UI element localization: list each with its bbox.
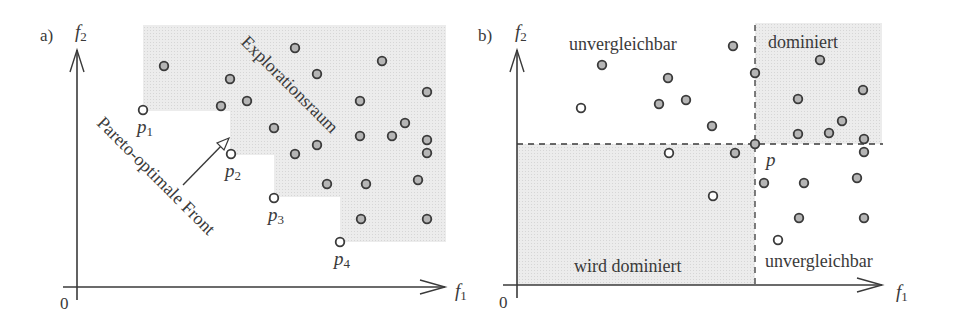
filled-point xyxy=(731,149,740,158)
filled-point xyxy=(800,179,809,188)
filled-point xyxy=(860,148,869,157)
panel-a: a) f2 f1 0 Explorationsraum Pareto-optim… xyxy=(40,21,467,313)
explored-point xyxy=(313,141,322,150)
reference-point-label: p xyxy=(764,149,776,170)
pareto-front-label: Pareto-optimale Front xyxy=(93,113,219,239)
filled-point xyxy=(853,174,862,183)
filled-point xyxy=(795,214,804,223)
y-axis-label: f2 xyxy=(515,21,527,44)
open-point xyxy=(665,149,674,158)
explored-point xyxy=(401,119,410,128)
explored-point xyxy=(226,75,235,84)
filled-point xyxy=(859,86,868,95)
point-label: p4 xyxy=(332,248,351,271)
explored-point xyxy=(323,180,332,189)
pareto-figure: a) f2 f1 0 Explorationsraum Pareto-optim… xyxy=(0,0,958,328)
explored-point xyxy=(291,150,300,159)
explored-point xyxy=(423,215,432,224)
explored-point xyxy=(160,62,169,71)
open-point xyxy=(577,104,586,113)
explored-point xyxy=(270,124,279,133)
pareto-point xyxy=(270,194,279,203)
explored-point xyxy=(388,132,397,141)
explored-point xyxy=(378,57,387,66)
filled-point xyxy=(598,61,607,70)
x-axis-label: f1 xyxy=(455,280,467,303)
filled-point xyxy=(664,74,673,83)
filled-point xyxy=(794,130,803,139)
filled-point xyxy=(825,129,834,138)
explored-point xyxy=(362,180,371,189)
region-label-top-left: unvergleichbar xyxy=(569,34,677,54)
filled-point xyxy=(682,96,691,105)
filled-point xyxy=(816,56,825,65)
filled-point xyxy=(708,122,717,131)
explored-point xyxy=(414,176,423,185)
origin-label: 0 xyxy=(60,294,69,313)
panel-b-label: b) xyxy=(478,26,492,45)
region-label-bottom-left: wird dominiert xyxy=(574,256,681,276)
open-point xyxy=(709,192,718,201)
filled-point xyxy=(838,117,847,126)
open-point xyxy=(774,236,783,245)
panel-b: b) f2 f1 0 unvergleichbar dominiert wird… xyxy=(478,21,908,312)
filled-point xyxy=(860,135,869,144)
point-label: p2 xyxy=(223,160,241,183)
pareto-point xyxy=(227,150,236,159)
point-label: p1 xyxy=(135,116,153,139)
point-label: p3 xyxy=(266,204,284,227)
filled-point xyxy=(751,69,760,78)
x-axis-label: f1 xyxy=(896,281,908,304)
explored-point xyxy=(243,97,252,106)
reference-point xyxy=(751,140,760,149)
explored-point xyxy=(423,149,432,158)
explored-point xyxy=(423,88,432,97)
pareto-point xyxy=(139,106,148,115)
filled-point xyxy=(729,42,738,51)
explored-point xyxy=(423,136,432,145)
filled-point xyxy=(860,214,869,223)
region-label-bottom-right: unvergleichbar xyxy=(765,251,873,271)
filled-point xyxy=(794,95,803,104)
filled-point xyxy=(655,100,664,109)
explored-point xyxy=(217,102,226,111)
explored-point xyxy=(291,44,300,53)
origin-label: 0 xyxy=(499,293,508,312)
front-pointer xyxy=(183,142,225,185)
y-axis-label: f2 xyxy=(75,21,87,44)
region-label-top-right: dominiert xyxy=(768,32,838,52)
pareto-point xyxy=(336,238,345,247)
filled-point xyxy=(760,179,769,188)
explored-point xyxy=(356,132,365,141)
explored-point xyxy=(313,70,322,79)
explored-point xyxy=(357,215,366,224)
panel-a-label: a) xyxy=(40,26,53,45)
explored-point xyxy=(356,97,365,106)
